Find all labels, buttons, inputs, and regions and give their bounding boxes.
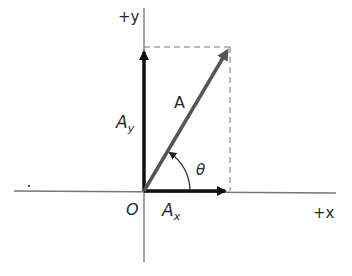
ay-label: Ay (116, 114, 134, 131)
x-axis-label: +x (313, 206, 334, 221)
theta-label: θ (196, 163, 205, 178)
theta-arc (170, 153, 190, 190)
y-axis-label: +y (118, 10, 139, 25)
origin-label: O (126, 202, 139, 218)
ax-label: Ax (162, 202, 180, 219)
vector-a-label: A (174, 95, 185, 111)
stray-dot (28, 185, 30, 187)
vector-diagram (0, 0, 352, 276)
